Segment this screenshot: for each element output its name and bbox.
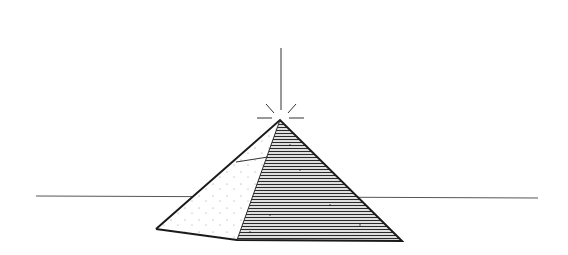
pyramid-drawing	[0, 0, 568, 255]
pyramid-illustration	[0, 0, 568, 255]
